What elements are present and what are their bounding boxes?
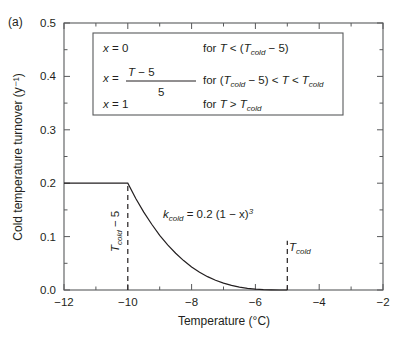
data-curve [64, 183, 287, 290]
svg-text:Cold temperature turnover (y⁻¹: Cold temperature turnover (y⁻¹) [11, 73, 25, 240]
chart-svg: (a) −12−10−8−6−4−2 0.00.10.20.30.40.5 Tc… [0, 0, 400, 348]
x-tick-label: −8 [185, 296, 198, 308]
curve-equation-annotation: kcold = 0.2 (1 − x)3 [163, 207, 254, 223]
panel-label: (a) [8, 15, 23, 29]
reference-lines [128, 183, 287, 290]
svg-text:x = 0: x = 0 [102, 42, 128, 54]
tcold-annotation: Tcold [289, 241, 311, 256]
equation-box: x = 0 for T < (Tcold − 5) x = T − 5 5 fo… [93, 33, 343, 115]
svg-text:Tcold: Tcold [289, 241, 311, 256]
y-tick-label: 0.1 [40, 231, 56, 243]
series-k_cold [64, 183, 287, 290]
x-tick-labels: −12−10−8−6−4−2 [54, 296, 389, 308]
x-tick-label: −2 [376, 296, 389, 308]
x-tick-label: −10 [118, 296, 138, 308]
svg-text:Temperature (°C): Temperature (°C) [178, 314, 270, 328]
y-tick-labels: 0.00.10.20.30.40.5 [40, 17, 57, 296]
y-tick-label: 0.3 [40, 124, 56, 136]
x-tick-label: −6 [249, 296, 262, 308]
y-tick-label: 0.5 [40, 17, 56, 29]
y-axis-title: Cold temperature turnover (y⁻¹) [11, 73, 25, 240]
svg-text:Tcold − 5: Tcold − 5 [109, 211, 124, 252]
y-tick-label: 0.2 [40, 177, 56, 189]
x-tick-label: −4 [313, 296, 327, 308]
fraction-numerator: T − 5 [128, 66, 155, 78]
y-tick-label: 0.0 [40, 284, 56, 296]
figure-panel-a: (a) −12−10−8−6−4−2 0.00.10.20.30.40.5 Tc… [0, 0, 400, 348]
svg-text:x = 1: x = 1 [102, 98, 128, 110]
fraction-denominator: 5 [158, 86, 164, 98]
y-tick-label: 0.4 [40, 70, 57, 82]
x-axis-title: Temperature (°C) [178, 314, 270, 328]
x-tick-label: −12 [54, 296, 74, 308]
svg-text:x =: x = [102, 72, 119, 84]
svg-text:kcold = 0.2 (1 − x)3: kcold = 0.2 (1 − x)3 [163, 207, 254, 223]
tcold-minus-5-annotation: Tcold − 5 [109, 211, 124, 252]
